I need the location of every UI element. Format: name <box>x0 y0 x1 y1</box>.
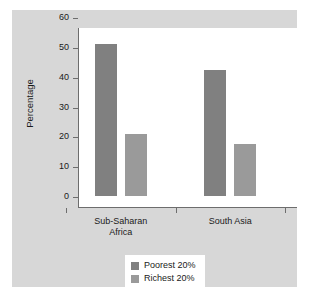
y-axis-tick <box>73 48 78 49</box>
legend-label: Richest 20% <box>144 274 195 283</box>
x-axis-tick <box>285 208 286 213</box>
y-axis-tick <box>73 18 78 19</box>
y-axis-tick-label: 50 <box>45 43 69 52</box>
legend-item[interactable]: Poorest 20% <box>131 259 196 272</box>
y-axis-tick <box>73 108 78 109</box>
bar <box>94 43 118 197</box>
y-axis-tick-label: 60 <box>45 13 69 22</box>
legend-label: Poorest 20% <box>144 261 196 270</box>
y-axis-tick-label: 0 <box>45 192 69 201</box>
chart-figure: 0102030405060 Percentage Sub-Saharan Afr… <box>0 0 309 295</box>
x-axis-line <box>78 207 297 208</box>
y-axis-tick-label: 20 <box>45 132 69 141</box>
legend-swatch-icon <box>131 262 139 270</box>
y-axis-tick-label: 10 <box>45 162 69 171</box>
y-axis-line <box>78 28 79 207</box>
y-axis-tick-label: 40 <box>45 73 69 82</box>
x-axis-tick <box>66 208 67 213</box>
x-axis-tick <box>176 208 177 213</box>
legend-item[interactable]: Richest 20% <box>131 272 196 285</box>
y-axis-title: Percentage <box>24 59 35 149</box>
legend-swatch-icon <box>131 275 139 283</box>
bar <box>233 143 257 197</box>
y-axis-tick-label: 30 <box>45 103 69 112</box>
x-axis-label: South Asia <box>175 216 285 227</box>
y-axis-tick <box>73 197 78 198</box>
x-axis-label: Sub-Saharan Africa <box>66 216 176 238</box>
bar <box>203 69 227 197</box>
chart-legend: Poorest 20%Richest 20% <box>125 255 205 289</box>
bar <box>124 133 148 197</box>
y-axis-tick <box>73 78 78 79</box>
y-axis-tick <box>73 167 78 168</box>
y-axis-tick <box>73 137 78 138</box>
chart-panel: 0102030405060 Percentage Sub-Saharan Afr… <box>12 10 297 287</box>
